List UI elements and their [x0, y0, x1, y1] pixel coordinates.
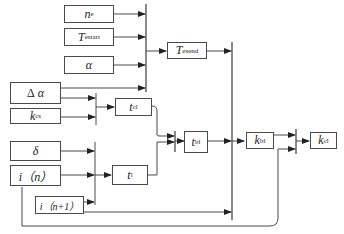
block-kcs: kcs [10, 108, 61, 124]
block-kcl: kcl [310, 132, 337, 149]
block-delta-alpha-label: α [38, 86, 44, 101]
block-delta: δ [10, 141, 61, 161]
block-tbl-sub: bl [195, 138, 200, 146]
block-t-estart-sub: estart [85, 33, 100, 41]
block-i-n-label: i（n） [19, 167, 52, 185]
block-t-esend-sub: esend [182, 47, 198, 55]
block-t-esend: Tesend [167, 42, 207, 59]
block-tl: tl [112, 165, 148, 185]
block-kcl-sub: cl [324, 137, 329, 145]
block-delta-label: δ [33, 144, 39, 159]
block-tbl: tbl [184, 131, 208, 153]
block-ne-sub: e [90, 10, 93, 18]
block-i-n-plus-1: i（n+1） [35, 196, 84, 214]
block-tcl-sub: cl [133, 103, 138, 111]
block-t-estart-label: T [78, 30, 85, 45]
block-ne: ne [64, 5, 114, 23]
block-kbl-sub: bl [260, 137, 265, 145]
block-alpha: α [64, 56, 114, 74]
block-tl-sub: l [131, 171, 133, 179]
block-kcs-sub: cs [35, 112, 41, 120]
block-i-n: i（n） [10, 165, 61, 186]
block-kbl: kbl [246, 132, 274, 149]
block-delta-alpha: Δα [10, 82, 61, 104]
block-t-estart: Testart [64, 28, 114, 46]
block-alpha-label: α [86, 58, 92, 73]
block-t-esend-label: T [176, 43, 183, 58]
block-tcl: tcl [115, 98, 152, 116]
block-i-n-plus-1-label: i（n+1） [40, 198, 80, 213]
block-delta-alpha-prefix: Δ [27, 86, 35, 101]
